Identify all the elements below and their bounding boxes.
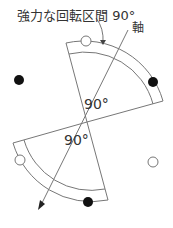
axis-label: 軸: [132, 18, 144, 35]
filled-dot: [14, 75, 24, 85]
rotation-diagram: [0, 0, 173, 228]
filled-dot: [83, 197, 93, 207]
open-dot: [148, 157, 158, 167]
open-dot: [81, 36, 91, 46]
strong-rotation-label: 強力な回転区間 90°: [17, 5, 135, 24]
lower-sector-right-edge: [87, 122, 108, 200]
axis-arrowhead-icon: [38, 200, 45, 210]
open-dot: [15, 155, 25, 165]
upper-sector-inner-arc: [69, 52, 153, 104]
axis-line: [41, 30, 128, 205]
filled-dot: [148, 77, 158, 87]
lower-sector-outer-arc: [13, 143, 108, 202]
upper-angle-label: 90°: [84, 96, 109, 112]
lower-angle-label: 90°: [64, 132, 89, 148]
